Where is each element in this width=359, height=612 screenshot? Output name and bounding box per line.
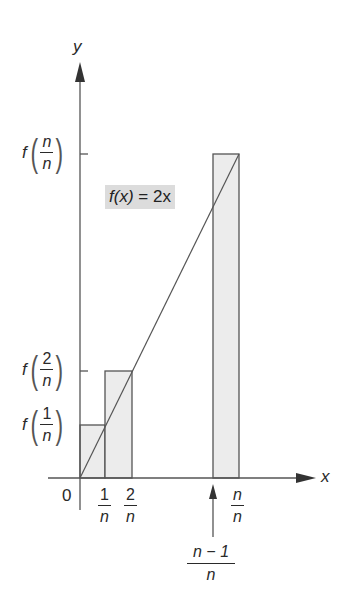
function-label: f(x) = 2x xyxy=(105,185,175,209)
function-eq: = xyxy=(138,187,148,206)
rectangle-n xyxy=(213,154,239,478)
y-tick-label-n: f ( n n ) xyxy=(22,134,66,172)
function-lhs: f(x) xyxy=(109,187,134,206)
y-axis-arrow-icon xyxy=(75,62,85,82)
origin-label: 0 xyxy=(62,487,71,504)
x-pointer-label: n − 1 n xyxy=(187,544,235,583)
x-tick-label-n: n n xyxy=(231,487,244,525)
y-tick-label-2: f ( 2 n ) xyxy=(22,351,66,389)
x-tick-label-1: 1 n xyxy=(98,487,111,525)
pointer-arrow-icon xyxy=(209,484,217,499)
rectangle-2 xyxy=(105,371,132,478)
function-rhs: 2x xyxy=(153,187,171,206)
x-axis-arrow-icon xyxy=(296,473,316,483)
y-axis-label: y xyxy=(73,38,82,55)
x-axis-label: x xyxy=(321,468,330,485)
x-tick-label-2: 2 n xyxy=(124,487,137,525)
y-tick-label-1: f ( 1 n ) xyxy=(22,406,66,444)
riemann-sum-diagram xyxy=(0,0,359,612)
